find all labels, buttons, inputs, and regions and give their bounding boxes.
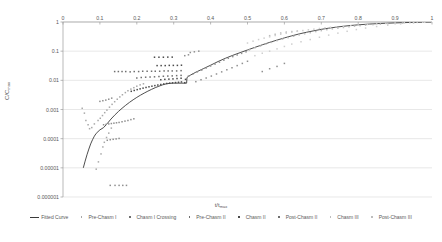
data-point [276, 66, 278, 68]
x-axis-tick-label: 0.6 [281, 15, 288, 21]
legend-item[interactable]: Fitted Curve [30, 214, 68, 220]
data-point [367, 24, 369, 26]
data-point [387, 24, 389, 26]
data-point [262, 71, 264, 73]
data-point [350, 25, 352, 27]
data-point [346, 31, 348, 33]
data-point [205, 67, 207, 69]
data-point [163, 83, 165, 85]
data-point [116, 98, 118, 100]
data-point [89, 128, 91, 129]
data-point [108, 132, 110, 134]
data-point [354, 25, 356, 27]
legend-item[interactable]: Chasm III [326, 214, 358, 220]
legend-item[interactable]: Pre-Chasm II [185, 214, 225, 220]
data-point [404, 22, 406, 24]
data-point [111, 127, 113, 128]
legend-line-swatch-icon [30, 215, 39, 220]
data-point [171, 70, 173, 72]
data-point [142, 70, 144, 72]
data-point [108, 123, 110, 125]
data-point [216, 73, 218, 75]
data-point [111, 97, 113, 99]
data-point [324, 27, 326, 29]
data-point [84, 112, 86, 114]
data-point [127, 120, 129, 122]
data-point [359, 25, 361, 27]
data-point [163, 70, 165, 72]
data-point [252, 40, 254, 42]
legend-item-label: Chasm I Crossing [136, 214, 176, 220]
data-point [176, 70, 178, 72]
data-point [118, 122, 120, 124]
data-point [380, 23, 382, 25]
data-point [87, 124, 89, 126]
data-point [197, 71, 199, 73]
data-point [258, 39, 260, 41]
data-point [176, 78, 178, 80]
data-point [188, 54, 190, 56]
data-point [219, 61, 221, 63]
data-point [297, 31, 299, 33]
data-point [136, 89, 138, 91]
data-point [211, 75, 213, 77]
legend-item[interactable]: Pre-Chasm I [77, 214, 116, 220]
data-point [104, 112, 106, 114]
data-point [109, 106, 111, 108]
legend-item[interactable]: Chasm I Crossing [125, 214, 176, 220]
data-point [245, 51, 247, 53]
data-point [114, 71, 116, 73]
data-point [402, 22, 404, 24]
data-point [332, 28, 334, 30]
data-point [343, 27, 345, 29]
data-point [133, 118, 135, 120]
data-point [337, 32, 339, 34]
data-point [173, 65, 175, 67]
y-axis-tick-label: 0.00001 [40, 165, 59, 171]
chart-screenshot: 10.10.010.0010.00010.000010.00000100.10.… [0, 0, 442, 242]
series-points [249, 21, 433, 50]
data-point [97, 120, 99, 122]
data-point [232, 56, 234, 58]
data-point [114, 101, 116, 103]
data-point [308, 29, 310, 31]
data-point [129, 71, 131, 73]
data-point [158, 56, 160, 58]
data-point [249, 49, 251, 51]
data-point [254, 47, 256, 49]
data-point [133, 90, 135, 92]
legend-item[interactable]: Post-Chasm II [275, 214, 318, 220]
x-axis-title: t/tmax [0, 202, 442, 209]
data-point [221, 71, 223, 73]
legend-dot-swatch-icon [275, 215, 284, 220]
data-point [133, 87, 135, 89]
data-point [115, 138, 117, 140]
legend-item-label: Chasm II [246, 214, 266, 220]
legend-item[interactable]: Post-Chasm III [368, 214, 412, 220]
data-point [409, 22, 411, 24]
data-point [365, 27, 367, 29]
data-point [228, 58, 230, 60]
data-point [304, 33, 306, 35]
data-point [145, 76, 147, 78]
data-point [171, 75, 173, 77]
legend-item-label: Post-Chasm II [286, 214, 318, 220]
chart-legend: Fitted CurvePre-Chasm IChasm I CrossingP… [0, 214, 442, 220]
data-point [163, 56, 165, 58]
data-point [155, 70, 157, 72]
data-point [274, 35, 276, 37]
data-point [149, 76, 151, 78]
legend-item[interactable]: Chasm II [235, 214, 266, 220]
y-axis-title-subscript: max [6, 82, 11, 90]
data-point [214, 63, 216, 65]
data-point [125, 92, 127, 94]
data-point [321, 30, 323, 32]
data-point [260, 45, 262, 47]
legend-dot-swatch-icon [77, 215, 86, 220]
legend-dot-swatch-icon [326, 215, 335, 220]
x-axis-tick-label: 0.3 [170, 15, 177, 21]
data-point [280, 34, 282, 36]
data-point [118, 138, 120, 140]
data-point [356, 29, 358, 31]
data-point [286, 32, 288, 34]
